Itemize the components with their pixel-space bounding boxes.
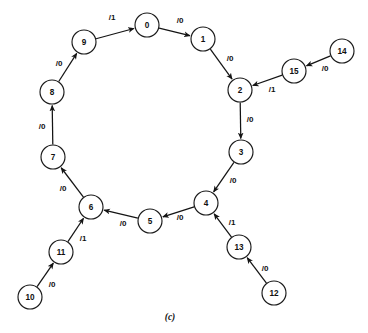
transition-label: /0	[177, 16, 184, 25]
transition-arrow	[240, 102, 241, 138]
transition-arrow	[96, 29, 134, 39]
state-node[interactable]: 10	[18, 285, 42, 309]
transition-label: /0	[56, 59, 63, 68]
state-node[interactable]: 2	[228, 78, 252, 102]
state-node[interactable]: 15	[282, 59, 306, 83]
transition-edge: /0	[306, 56, 330, 73]
state-label: 5	[148, 217, 153, 226]
transition-arrow	[253, 75, 282, 85]
state-node[interactable]: 4	[194, 191, 218, 215]
transition-label: /0	[322, 64, 329, 73]
state-node[interactable]: 3	[229, 140, 253, 164]
transition-edge: /1	[68, 218, 87, 242]
transition-label: /0	[60, 184, 67, 193]
transition-label: /0	[227, 54, 234, 63]
transition-edge: /1	[214, 214, 236, 237]
state-label: 13	[234, 243, 244, 252]
state-node[interactable]: 12	[262, 281, 286, 305]
transition-label: /1	[229, 218, 236, 227]
state-label: 7	[51, 153, 56, 162]
state-label: 0	[145, 21, 150, 30]
transition-edge: /0	[104, 210, 138, 227]
transition-arrow	[61, 168, 83, 197]
state-label: 3	[239, 148, 244, 157]
transition-edge: /0	[39, 105, 53, 144]
state-label: 4	[204, 199, 209, 208]
transition-edge: /0	[240, 102, 254, 138]
transition-edge: /0	[214, 162, 237, 192]
transition-label: /0	[230, 176, 237, 185]
state-label: 10	[25, 293, 35, 302]
transition-label: /1	[269, 85, 276, 94]
state-node[interactable]: 1	[191, 27, 215, 51]
transition-edge: /0	[37, 263, 56, 288]
transition-label: /0	[49, 280, 56, 289]
transition-arrow	[159, 28, 190, 36]
transition-edge: /0	[163, 207, 194, 222]
state-diagram-figure: /1/0/0/0/0/0/0/0/0/0/0/1/0/1/0/1 0123456…	[0, 0, 368, 333]
transition-label: /0	[39, 122, 46, 131]
transition-label: /1	[109, 13, 116, 22]
state-label: 12	[269, 289, 279, 298]
state-node[interactable]: 7	[41, 145, 65, 169]
state-node[interactable]: 6	[79, 195, 103, 219]
state-label: 2	[238, 86, 243, 95]
state-node[interactable]: 11	[49, 240, 73, 264]
state-diagram-canvas: /1/0/0/0/0/0/0/0/0/0/0/1/0/1/0/1 0123456…	[0, 0, 368, 333]
transition-label: /0	[177, 213, 184, 222]
state-node[interactable]: 0	[135, 13, 159, 37]
transition-arrow	[104, 210, 138, 218]
transition-label: /1	[80, 234, 87, 243]
state-node[interactable]: 14	[330, 39, 354, 63]
transition-label: /0	[262, 264, 269, 273]
figure-caption: (c)	[165, 312, 176, 323]
state-node[interactable]: 13	[227, 235, 251, 259]
transition-edge: /1	[96, 13, 134, 39]
transition-edge: /0	[210, 49, 234, 79]
node-layer: 0123456789101112131415	[18, 13, 354, 309]
state-node[interactable]: 5	[138, 209, 162, 233]
state-node[interactable]: 9	[72, 30, 96, 54]
state-label: 15	[289, 67, 299, 76]
state-label: 8	[50, 88, 55, 97]
transition-edge: /0	[60, 168, 84, 197]
transition-edge: /0	[247, 258, 269, 283]
transition-edge: /1	[253, 75, 282, 93]
state-node[interactable]: 8	[40, 80, 64, 104]
transition-label: /0	[120, 219, 127, 228]
state-label: 9	[82, 38, 87, 47]
state-label: 1	[201, 35, 206, 44]
transition-label: /0	[247, 115, 254, 124]
transition-edge: /0	[159, 16, 190, 36]
state-label: 6	[89, 203, 94, 212]
state-label: 14	[337, 47, 347, 56]
transition-arrow	[52, 105, 53, 144]
state-label: 11	[57, 248, 66, 257]
transition-edge: /0	[56, 53, 77, 81]
